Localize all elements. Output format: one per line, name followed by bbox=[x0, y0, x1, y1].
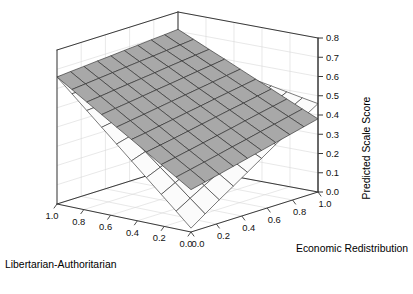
x-tick-label: 1.0 bbox=[45, 210, 58, 221]
y-tick-label: 0.2 bbox=[217, 230, 230, 241]
y-tick-label: 0.6 bbox=[268, 214, 281, 225]
plot-canvas: 0.00.10.20.30.40.50.60.70.8Predicted Sca… bbox=[0, 0, 413, 294]
x-tick-label: 0.4 bbox=[126, 227, 139, 238]
z-tick-label: 0.3 bbox=[326, 129, 339, 140]
z-tick-label: 0.6 bbox=[326, 71, 339, 82]
z-tick-label: 0.2 bbox=[326, 148, 339, 159]
x-axis-title: Libertarian-Authoritarian bbox=[5, 259, 117, 270]
y-axis-title: Economic Redistribution bbox=[296, 243, 408, 254]
z-tick-label: 0.8 bbox=[326, 32, 339, 43]
z-axis-title: Predicted Scale Score bbox=[361, 96, 372, 199]
y-tick-label: 0.0 bbox=[191, 238, 204, 249]
z-tick-label: 0.4 bbox=[326, 109, 339, 120]
x-tick-label: 0.8 bbox=[72, 216, 85, 227]
y-tick-label: 1.0 bbox=[318, 198, 331, 209]
y-tick-label: 0.8 bbox=[293, 206, 306, 217]
z-tick-label: 0.5 bbox=[326, 90, 339, 101]
surfaces bbox=[57, 29, 318, 228]
y-tick-label: 0.4 bbox=[242, 222, 255, 233]
x-tick-label: 0.2 bbox=[153, 232, 166, 243]
cut-caption-text bbox=[0, 284, 413, 294]
z-tick-label: 0.7 bbox=[326, 52, 339, 63]
z-tick-label: 0.1 bbox=[326, 167, 339, 178]
z-tick-label: 0.0 bbox=[326, 186, 339, 197]
surface-plot-figure: 0.00.10.20.30.40.50.60.70.8Predicted Sca… bbox=[0, 0, 413, 294]
x-tick-label: 0.6 bbox=[99, 221, 112, 232]
